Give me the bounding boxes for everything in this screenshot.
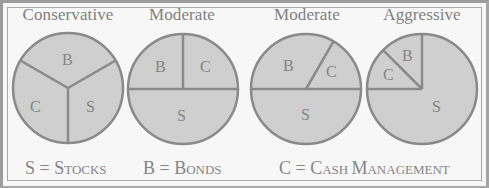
legend-text: M bbox=[351, 158, 367, 178]
slice-label-b: B bbox=[283, 57, 294, 74]
legend-text: S bbox=[54, 158, 64, 178]
pie-moderate-2 bbox=[251, 34, 361, 144]
legend-text: ANAGEMENT bbox=[367, 162, 449, 177]
slice-label-s: S bbox=[177, 107, 186, 124]
slice-label-c: C bbox=[200, 58, 211, 75]
slice-label-c: C bbox=[326, 63, 337, 80]
slice-label-s: S bbox=[86, 98, 95, 115]
legend-text: TOCKS bbox=[64, 162, 106, 177]
legend-text: C bbox=[310, 158, 322, 178]
legend-equals: = bbox=[291, 158, 310, 178]
pie-aggressive bbox=[367, 34, 477, 144]
slice-label-s: S bbox=[432, 98, 441, 115]
slice-label-b: B bbox=[62, 51, 73, 68]
legend-stocks: S = STOCKS bbox=[25, 158, 107, 179]
slice-label-b: B bbox=[155, 58, 166, 75]
legend-key: B bbox=[143, 158, 155, 178]
legend-key: S bbox=[25, 158, 35, 178]
legend-bonds: B = BONDS bbox=[143, 158, 222, 179]
legend-cash: C = CASH MANAGEMENT bbox=[279, 158, 450, 179]
slice-label-c: C bbox=[383, 66, 394, 83]
legend-text: ONDS bbox=[186, 162, 221, 177]
pie-conservative bbox=[13, 33, 123, 143]
legend-equals: = bbox=[35, 158, 54, 178]
slice-label-b: B bbox=[402, 47, 413, 64]
slice-label-c: C bbox=[30, 98, 41, 115]
slice-label-s: S bbox=[301, 106, 310, 123]
legend-text: ASH bbox=[322, 162, 351, 177]
legend-key: C bbox=[279, 158, 291, 178]
legend-text: B bbox=[174, 158, 186, 178]
legend-equals: = bbox=[155, 158, 174, 178]
pie-moderate-1 bbox=[128, 34, 238, 144]
